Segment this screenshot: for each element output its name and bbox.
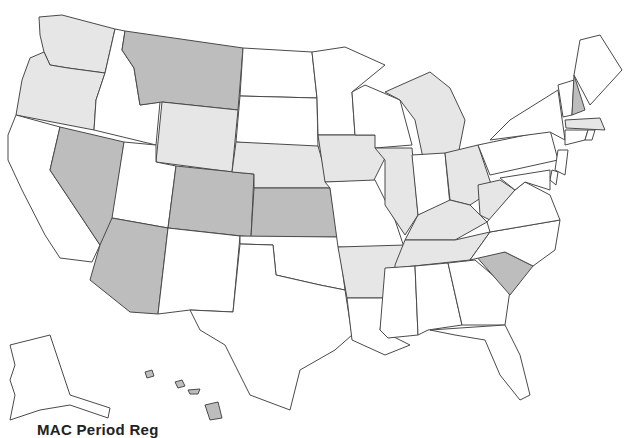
state-CT[interactable] — [565, 130, 588, 145]
state-MA[interactable] — [565, 118, 605, 130]
state-WA[interactable] — [39, 15, 115, 73]
state-NY[interactable] — [490, 90, 565, 140]
map-caption: MAC Period Reg — [37, 421, 159, 438]
state-MS[interactable] — [380, 266, 418, 338]
state-CO[interactable] — [168, 166, 254, 237]
state-ND[interactable] — [240, 48, 317, 98]
state-ME[interactable] — [574, 35, 622, 105]
state-NM[interactable] — [158, 228, 240, 314]
state-SD[interactable] — [236, 96, 318, 150]
state-FL[interactable] — [430, 325, 530, 400]
state-WY[interactable] — [156, 102, 238, 172]
state-HI[interactable] — [145, 370, 222, 420]
state-MT[interactable] — [122, 31, 243, 110]
state-KS[interactable] — [251, 188, 338, 237]
state-DE[interactable] — [550, 170, 558, 185]
state-AK[interactable] — [10, 335, 110, 420]
